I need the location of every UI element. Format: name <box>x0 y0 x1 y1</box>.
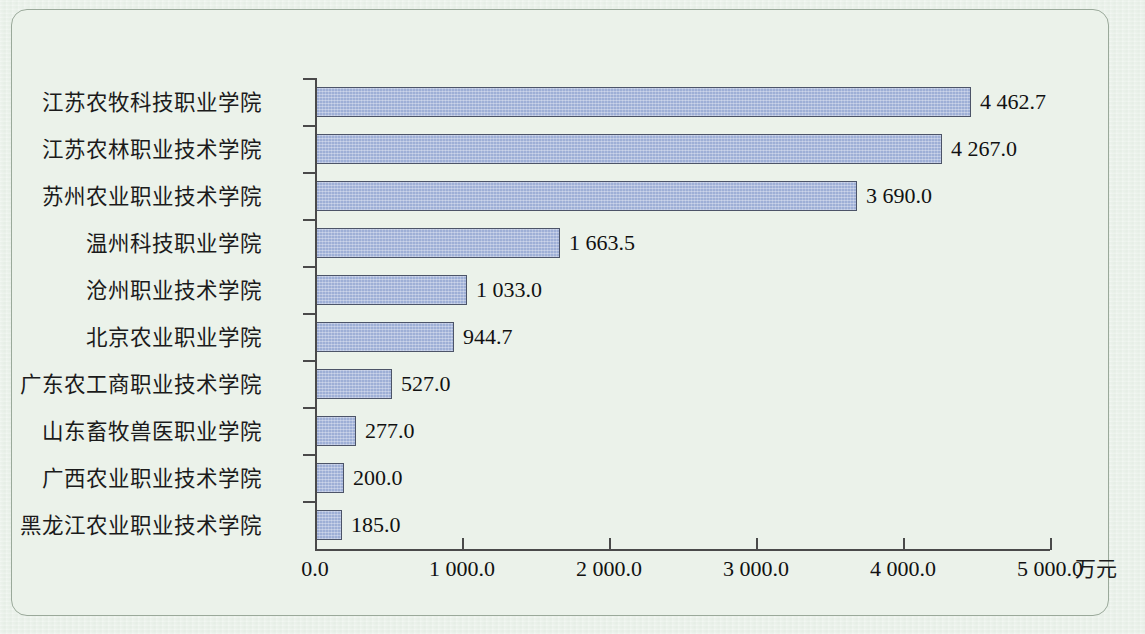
bar-value-label: 4 462.7 <box>980 87 1046 117</box>
bar <box>315 181 857 211</box>
x-axis-tick-label: 3 000.0 <box>723 558 789 580</box>
x-axis-tick <box>609 538 611 550</box>
bar <box>315 275 467 305</box>
y-axis-tick <box>303 407 316 409</box>
y-axis-tick <box>303 219 316 221</box>
category-label: 广东农工商职业技术学院 <box>0 374 262 396</box>
bar-value-label: 1 663.5 <box>569 228 635 258</box>
bar <box>315 369 392 399</box>
x-axis-tick-label: 1 000.0 <box>429 558 495 580</box>
horizontal-bar-chart: 江苏农牧科技职业学院 江苏农林职业技术学院 苏州农业职业技术学院 温州科技职业学… <box>12 10 1108 615</box>
y-axis-tick <box>303 313 316 315</box>
category-label: 温州科技职业学院 <box>0 233 262 255</box>
chart-page: 江苏农牧科技职业学院 江苏农林职业技术学院 苏州农业职业技术学院 温州科技职业学… <box>0 0 1145 634</box>
category-label: 黑龙江农业职业技术学院 <box>0 515 262 537</box>
x-axis-line <box>315 549 1050 551</box>
category-label: 苏州农业职业技术学院 <box>0 186 262 208</box>
bar <box>315 463 344 493</box>
x-axis-tick-label: 2 000.0 <box>576 558 642 580</box>
x-axis-tick <box>756 538 758 550</box>
bar-value-label: 1 033.0 <box>476 275 542 305</box>
bar-value-label: 277.0 <box>365 416 415 446</box>
category-label: 北京农业职业学院 <box>0 327 262 349</box>
category-label: 江苏农牧科技职业学院 <box>0 92 262 114</box>
category-label: 广西农业职业技术学院 <box>0 468 262 490</box>
bar-value-label: 4 267.0 <box>951 134 1017 164</box>
category-label: 江苏农林职业技术学院 <box>0 139 262 161</box>
bar-value-label: 185.0 <box>351 510 401 540</box>
bar <box>315 228 560 258</box>
x-axis-tick <box>462 538 464 550</box>
bar-value-label: 527.0 <box>401 369 451 399</box>
chart-frame: 江苏农牧科技职业学院 江苏农林职业技术学院 苏州农业职业技术学院 温州科技职业学… <box>11 9 1109 616</box>
y-axis-tick <box>303 454 316 456</box>
bar <box>315 416 356 446</box>
bar-value-label: 944.7 <box>463 322 513 352</box>
category-label: 沧州职业技术学院 <box>0 280 262 302</box>
x-axis-tick-label: 4 000.0 <box>870 558 936 580</box>
y-axis-tick <box>303 172 316 174</box>
y-axis-tick <box>303 78 316 80</box>
x-axis-tick-label: 5 000.0 <box>1017 558 1083 580</box>
bar <box>315 510 342 540</box>
bar-value-label: 200.0 <box>353 463 403 493</box>
bar <box>315 322 454 352</box>
bar <box>315 87 971 117</box>
x-axis-tick-label: 0.0 <box>301 558 329 580</box>
x-axis-tick <box>1050 538 1052 550</box>
x-axis-tick <box>315 538 317 550</box>
bar-value-label: 3 690.0 <box>866 181 932 211</box>
y-axis-tick <box>303 125 316 127</box>
y-axis-tick <box>303 266 316 268</box>
y-axis-tick <box>303 501 316 503</box>
x-axis-tick <box>903 538 905 550</box>
bar <box>315 134 942 164</box>
y-axis-tick <box>303 360 316 362</box>
x-axis-unit-label: 万元 <box>1075 559 1117 580</box>
category-label: 山东畜牧兽医职业学院 <box>0 421 262 443</box>
